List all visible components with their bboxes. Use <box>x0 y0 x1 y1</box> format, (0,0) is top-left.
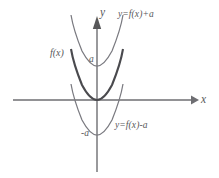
label-positive-a: a <box>89 55 94 65</box>
label-shifted-down-equation: y=f(x)-a <box>115 121 148 131</box>
label-shifted-up-equation: y=f(x)+a <box>118 10 154 20</box>
parabola-translation-figure: y=f(x)+a f(x) a -a y=f(x)-a x y <box>0 0 219 178</box>
figure-canvas <box>0 0 219 178</box>
x-axis <box>13 96 199 105</box>
label-base-function: f(x) <box>50 48 64 58</box>
y-axis <box>93 16 101 172</box>
label-negative-a: -a <box>81 129 89 139</box>
label-y-axis: y <box>100 7 105 19</box>
label-x-axis: x <box>201 94 206 106</box>
x-axis-arrowhead-icon <box>191 96 199 105</box>
